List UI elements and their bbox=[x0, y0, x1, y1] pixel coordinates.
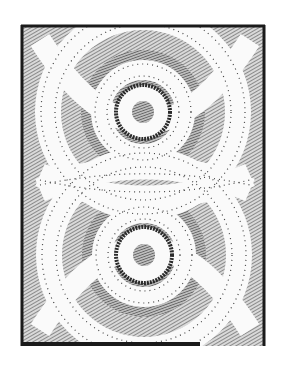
lower-concentric-motif bbox=[116, 227, 172, 283]
upper-concentric-motif bbox=[116, 85, 170, 139]
artwork-print bbox=[0, 0, 283, 370]
